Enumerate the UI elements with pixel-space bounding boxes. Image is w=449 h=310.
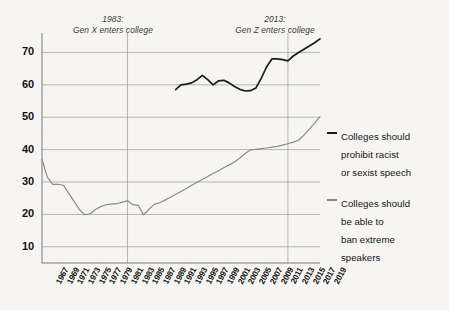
y-tick-label: 40 <box>8 143 34 155</box>
y-tick-label: 30 <box>8 175 34 187</box>
y-tick-label: 20 <box>8 207 34 219</box>
y-tick-label: 50 <box>8 110 34 122</box>
legend-item-prohibit-speech: Colleges should prohibit racist or sexis… <box>327 126 447 180</box>
legend-item-ban-speakers: Colleges should be able to ban extreme s… <box>327 193 447 265</box>
annotation-gen-x-year: 1983: <box>53 14 173 25</box>
annotation-gen-x: 1983: Gen X enters college <box>53 14 173 36</box>
legend-swatch-gray-line <box>327 199 337 201</box>
legend-label-ban-speakers: Colleges should be able to ban extreme s… <box>341 198 410 263</box>
y-tick-label: 60 <box>8 78 34 90</box>
annotation-gen-z-year: 2013: <box>205 14 345 25</box>
y-tick-label: 70 <box>8 45 34 57</box>
annotation-gen-x-text: Gen X enters college <box>53 25 173 36</box>
series-line-prohibit-speech <box>176 39 320 91</box>
legend-swatch-black-line <box>327 132 337 134</box>
annotation-gen-z: 2013: Gen Z enters college <box>205 14 345 36</box>
annotation-gen-z-text: Gen Z enters college <box>205 25 345 36</box>
chart-figure: 1983: Gen X enters college 2013: Gen Z e… <box>0 0 449 310</box>
chart-legend: Colleges should prohibit racist or sexis… <box>327 126 447 278</box>
y-tick-label: 10 <box>8 240 34 252</box>
series-line-ban-speakers <box>42 117 320 215</box>
legend-label-prohibit-speech: Colleges should prohibit racist or sexis… <box>341 131 411 178</box>
